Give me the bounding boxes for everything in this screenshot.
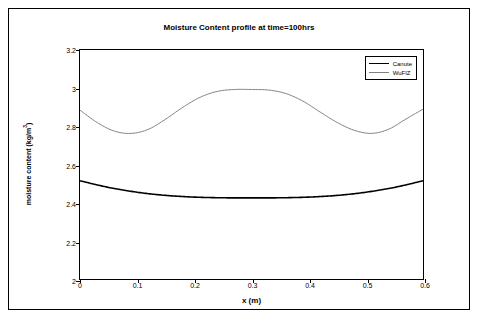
chart-frame: Moisture Content profile at time=100hrs … — [8, 8, 470, 310]
y-axis-label-base: moisture content (kg/m — [25, 128, 32, 205]
y-axis-label-exponent: 3 — [22, 125, 28, 128]
x-tick-mark — [310, 279, 311, 283]
x-tick-mark — [195, 279, 196, 283]
y-tick-mark — [76, 204, 80, 205]
legend-label-wufiz: WuFIZ — [393, 70, 411, 76]
x-tick-label: 0 — [78, 282, 82, 289]
legend-item-canute: Canute — [369, 59, 412, 68]
x-tick-mark — [253, 279, 254, 283]
y-tick-mark — [76, 50, 80, 51]
x-tick-label: 0.6 — [420, 282, 430, 289]
legend-swatch-canute — [369, 63, 389, 64]
x-axis-label: x (m) — [79, 296, 424, 305]
y-tick-label: 2.8 — [66, 124, 76, 131]
y-tick-label: 2.6 — [66, 162, 76, 169]
series-line-wufiz — [80, 89, 423, 133]
series-line-canute — [80, 181, 423, 198]
chart-title: Moisture Content profile at time=100hrs — [9, 23, 469, 32]
x-tick-label: 0.5 — [363, 282, 373, 289]
y-tick-label: 2.4 — [66, 201, 76, 208]
y-axis-label: moisture content (kg/m3) — [22, 123, 31, 206]
x-tick-label: 0.4 — [305, 282, 315, 289]
legend-swatch-wufiz — [369, 72, 389, 73]
y-axis-label-tail: ) — [25, 123, 32, 125]
legend-label-canute: Canute — [393, 61, 412, 67]
y-tick-mark — [76, 127, 80, 128]
x-tick-label: 0.1 — [133, 282, 143, 289]
x-tick-mark — [138, 279, 139, 283]
x-tick-mark — [368, 279, 369, 283]
plot-area: 22.22.42.62.833.2 00.10.20.30.40.50.6 Ca… — [79, 49, 424, 280]
chart-canvas — [80, 50, 423, 279]
y-tick-mark — [76, 89, 80, 90]
x-tick-label: 0.2 — [190, 282, 200, 289]
y-tick-label: 3.2 — [66, 47, 76, 54]
y-tick-label: 2.2 — [66, 239, 76, 246]
legend-item-wufiz: WuFIZ — [369, 68, 412, 77]
y-tick-mark — [76, 243, 80, 244]
y-tick-mark — [76, 166, 80, 167]
chart-legend: Canute WuFIZ — [365, 56, 417, 80]
x-tick-mark — [80, 279, 81, 283]
x-tick-label: 0.3 — [248, 282, 258, 289]
x-tick-mark — [425, 279, 426, 283]
